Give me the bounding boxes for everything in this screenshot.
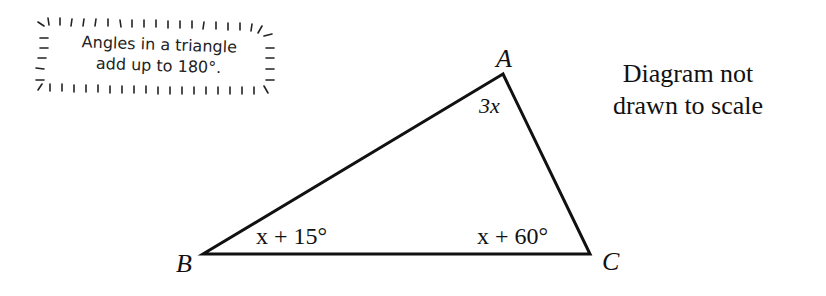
angle-label-a: 3x xyxy=(478,93,500,118)
triangle-diagram: A B C 3x x + 15° x + 60° xyxy=(0,0,826,296)
vertex-label-a: A xyxy=(494,44,512,73)
angle-label-b: x + 15° xyxy=(256,223,327,249)
vertex-label-b: B xyxy=(176,249,192,278)
vertex-label-c: C xyxy=(602,247,620,276)
angle-label-c: x + 60° xyxy=(477,223,548,249)
